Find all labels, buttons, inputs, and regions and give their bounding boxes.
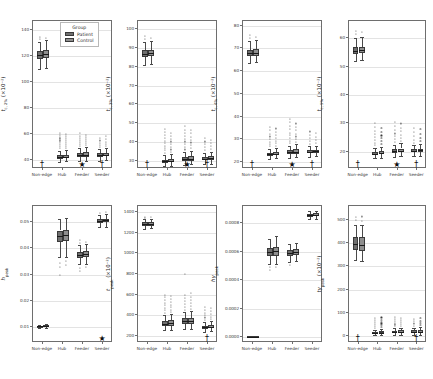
x-tick-label-hub: Hub [373, 346, 381, 351]
y-tick-mark [30, 326, 32, 327]
outlier-point [99, 140, 100, 141]
whisker-cap-low [143, 65, 147, 66]
whisker-low [362, 251, 363, 262]
outlier-point [204, 137, 205, 138]
outlier-point [400, 321, 401, 322]
median-line [273, 251, 279, 252]
outlier-point [164, 148, 165, 149]
outlier-point [191, 303, 192, 304]
whisker-cap-high [399, 143, 403, 144]
outlier-point [171, 309, 172, 310]
x-tick-label-seeder: Seeder [200, 346, 215, 351]
outlier-point [394, 126, 395, 127]
median-line [63, 157, 69, 158]
median-line [188, 321, 194, 322]
outlier-point [184, 301, 185, 302]
outlier-point [171, 301, 172, 302]
outlier-point [269, 133, 270, 134]
median-line [287, 152, 293, 153]
y-axis-label-tc-5pct: tc, 5% (×10⁻²) [316, 20, 324, 168]
outlier-point [171, 135, 172, 136]
whisker-cap-high [295, 144, 299, 145]
outlier-point [184, 304, 185, 305]
whisker-low [250, 56, 251, 63]
median-line [97, 221, 103, 222]
outlier-point [191, 133, 192, 134]
y-tick-mark [240, 138, 242, 139]
outlier-point [249, 34, 250, 35]
whisker-cap-high [412, 328, 416, 329]
median-line [77, 155, 83, 156]
whisker-cap-high [78, 245, 82, 246]
x-tick-mark [62, 168, 63, 170]
whisker-low [60, 242, 61, 258]
outlier-point [59, 136, 60, 137]
whisker-cap-high [163, 155, 167, 156]
outlier-point [269, 269, 270, 270]
y-tick-mark [240, 336, 242, 337]
y-tick-mark [30, 107, 32, 108]
whisker-low [356, 250, 357, 260]
whisker-cap-high [203, 322, 207, 323]
y-tick-mark [30, 55, 32, 56]
whisker-low [40, 59, 41, 69]
outlier-point [276, 145, 277, 146]
gridline [243, 252, 321, 253]
outlier-point [59, 144, 60, 145]
outlier-point [381, 323, 382, 324]
whisker-cap-high [150, 41, 154, 42]
y-tick-mark [346, 94, 348, 95]
y-axis-label-tc-2pct: tc, 2% (×10⁻²) [0, 20, 8, 168]
x-tick-mark [167, 168, 168, 170]
x-tick-label-feeder: Feeder [285, 172, 299, 177]
significance-marker-seeder: † [310, 161, 314, 169]
legend-swatch-control [65, 38, 74, 42]
outlier-point [400, 134, 401, 135]
median-line [411, 151, 417, 152]
median-line [418, 150, 424, 151]
outlier-point [171, 144, 172, 145]
whisker-cap-low [380, 158, 384, 159]
whisker-cap-high [360, 37, 364, 38]
outlier-point [86, 141, 87, 142]
figure-boxplot-grid: 406080100120140tc, 2% (×10⁻²)Non-edge†Hu… [0, 0, 433, 379]
whisker-cap-high [393, 145, 397, 146]
y-tick-mark [30, 81, 32, 82]
y-tick-mark [30, 133, 32, 134]
x-tick-label-non-edge: Non-edge [32, 346, 52, 351]
outlier-point [171, 304, 172, 305]
outlier-point [164, 134, 165, 135]
whisker-high [151, 41, 152, 50]
outlier-point [289, 129, 290, 130]
outlier-point [171, 151, 172, 152]
whisker-low [362, 53, 363, 60]
outlier-point [79, 135, 80, 136]
whisker-cap-low [190, 329, 194, 330]
whisker-cap-low [65, 161, 69, 162]
whisker-cap-high [78, 148, 82, 149]
outlier-point [99, 137, 100, 138]
whisker-cap-low [163, 166, 167, 167]
outlier-point [400, 131, 401, 132]
outlier-point [171, 312, 172, 313]
outlier-point [59, 138, 60, 139]
outlier-point [151, 217, 152, 218]
median-line [162, 324, 168, 325]
x-tick-label-seeder: Seeder [305, 172, 320, 177]
whisker-cap-high [288, 244, 292, 245]
gridline [33, 134, 111, 135]
outlier-point [374, 327, 375, 328]
median-line [57, 236, 63, 237]
significance-marker-seeder: † [205, 335, 209, 343]
whisker-high [80, 245, 81, 252]
outlier-point [413, 325, 414, 326]
gridline [349, 290, 425, 291]
outlier-point [374, 126, 375, 127]
median-line [162, 161, 168, 162]
x-tick-label-hub: Hub [268, 172, 276, 177]
outlier-point [381, 131, 382, 132]
x-tick-label-non-edge: Non-edge [242, 172, 262, 177]
outlier-point [276, 266, 277, 267]
whisker-cap-low [45, 328, 49, 329]
x-tick-mark [292, 342, 293, 344]
